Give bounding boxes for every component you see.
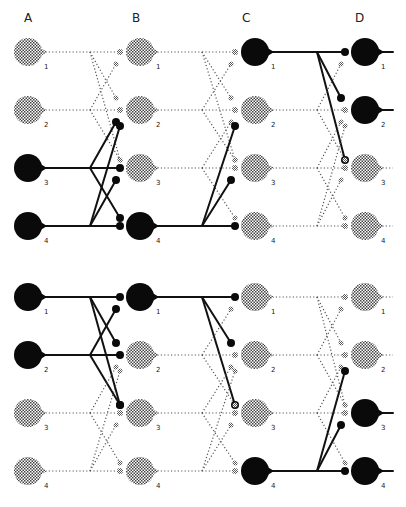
- synapse: [227, 176, 235, 184]
- inactive-neuron-soma: [351, 154, 379, 182]
- synapse: [337, 94, 345, 102]
- inactive-neuron-soma: [14, 96, 42, 124]
- neuron-c4: 4: [241, 212, 276, 245]
- neuron-d2: 2: [351, 96, 385, 129]
- synapse: [232, 410, 238, 416]
- synapse: [343, 461, 348, 466]
- synapse: [229, 307, 234, 312]
- neuron-c3: 3: [241, 154, 275, 187]
- synapse: [116, 122, 124, 130]
- active-neuron-soma: [126, 212, 154, 240]
- synapse: [114, 365, 119, 370]
- axon-branch: [90, 110, 120, 160]
- inactive-neuron-soma: [241, 283, 269, 311]
- axon-hillock: [266, 221, 274, 231]
- axon-branch: [202, 413, 235, 463]
- axon-branch: [90, 309, 116, 355]
- synapse: [117, 49, 123, 55]
- synapse: [233, 216, 238, 221]
- synapse: [112, 305, 120, 313]
- neuron-d3: 3: [351, 154, 385, 187]
- synapse: [114, 96, 119, 101]
- unit-number-label: 4: [381, 237, 386, 245]
- axon-branch: [90, 413, 120, 463]
- unit-number-label: 4: [271, 237, 276, 245]
- axon-hillock: [39, 466, 47, 476]
- synapse: [232, 165, 238, 171]
- axon-hillock: [151, 466, 159, 476]
- neuron-d4: 4: [351, 457, 386, 490]
- neuron-a2: 2: [14, 96, 48, 129]
- bottom-panel: 1234123412341234: [14, 283, 393, 490]
- axon-hillock: [376, 350, 384, 360]
- axon-hillock: [376, 47, 384, 57]
- synapse: [229, 365, 234, 370]
- neuron-b3: 3: [126, 154, 160, 187]
- inactive-neuron-soma: [126, 457, 154, 485]
- axon-hillock: [151, 47, 159, 57]
- axon-branch: [317, 64, 341, 110]
- active-neuron-soma: [14, 212, 42, 240]
- unit-number-label: 3: [381, 179, 385, 187]
- axon-hillock: [376, 466, 384, 476]
- axon-hillock: [266, 350, 274, 360]
- active-neuron-soma: [351, 399, 379, 427]
- neuron-a3: 3: [14, 154, 48, 187]
- unit-number-label: 1: [44, 308, 48, 316]
- synapse: [339, 120, 344, 125]
- axon-hillock: [39, 163, 47, 173]
- unit-number-label: 2: [44, 121, 48, 129]
- active-neuron-soma: [14, 283, 42, 311]
- synapse: [229, 423, 234, 428]
- unit-number-label: 4: [156, 482, 161, 490]
- synapse: [116, 164, 124, 172]
- unit-number-label: 1: [271, 63, 275, 71]
- unit-number-label: 3: [44, 179, 48, 187]
- unit-number-label: 1: [156, 308, 160, 316]
- unit-number-label: 4: [381, 482, 386, 490]
- active-neuron-soma: [241, 38, 269, 66]
- axon-branch: [202, 180, 231, 226]
- axon-hillock: [151, 350, 159, 360]
- axon-branch: [90, 122, 116, 168]
- neuron-d1: 1: [351, 283, 385, 316]
- synapse: [229, 96, 234, 101]
- neuron-b4: 4: [126, 457, 161, 490]
- active-neuron-soma: [351, 457, 379, 485]
- synapse: [232, 107, 238, 113]
- inactive-neuron-soma: [351, 341, 379, 369]
- unit-number-label: 2: [271, 366, 275, 374]
- synapse: [118, 158, 123, 163]
- unit-number-label: 1: [381, 308, 385, 316]
- synapse: [342, 223, 348, 229]
- neuron-b1: 1: [126, 283, 160, 316]
- unit-number-label: 1: [381, 63, 385, 71]
- axon-hillock: [266, 466, 274, 476]
- neuron-b2: 2: [126, 341, 160, 374]
- active-neuron-soma: [14, 341, 42, 369]
- inactive-neuron-soma: [126, 96, 154, 124]
- neuron-a4: 4: [14, 212, 49, 245]
- neuron-d3: 3: [351, 399, 385, 432]
- axon-hillock: [151, 163, 159, 173]
- axon-hillock: [266, 163, 274, 173]
- neuron-c2: 2: [241, 96, 275, 129]
- unit-number-label: 2: [44, 366, 48, 374]
- inactive-neuron-soma: [241, 212, 269, 240]
- synapse: [341, 367, 349, 375]
- synapse: [117, 410, 123, 416]
- axon-branch: [317, 367, 341, 413]
- synapse: [337, 421, 345, 429]
- axon-branch: [202, 122, 231, 168]
- axon-hillock: [376, 221, 384, 231]
- axon-hillock: [151, 221, 159, 231]
- synapse: [232, 49, 238, 55]
- unit-number-label: 4: [44, 237, 49, 245]
- synapse: [117, 107, 123, 113]
- synapse: [231, 122, 239, 130]
- axon-branch: [317, 180, 341, 226]
- axon-branch: [317, 309, 341, 355]
- axon-branch: [90, 297, 120, 405]
- inactive-neuron-soma: [126, 154, 154, 182]
- panels: 12341234123412341234123412341234: [14, 38, 393, 490]
